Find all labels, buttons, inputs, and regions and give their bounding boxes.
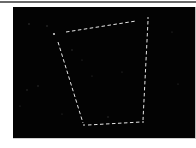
crop-edge-right (143, 21, 148, 120)
camera-viewport[interactable] (13, 7, 196, 139)
top-border (0, 1, 196, 3)
corner-handle-bottom-right[interactable] (142, 121, 144, 123)
noise-dots (19, 23, 178, 118)
crop-edge-bottom (88, 122, 141, 125)
corner-handle-bottom-left[interactable] (83, 124, 85, 126)
corner-handle-top-right[interactable] (147, 17, 149, 19)
corner-handle-top-left[interactable] (53, 33, 55, 35)
crop-outline (58, 21, 148, 125)
crop-edge-top (66, 21, 136, 32)
crop-outline-overlay (13, 7, 195, 138)
crop-edge-left (58, 42, 83, 123)
